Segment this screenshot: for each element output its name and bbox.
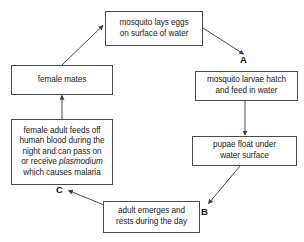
edge-adult-to-female-feeds bbox=[69, 191, 105, 206]
node-label: female adult feeds off human blood durin… bbox=[20, 126, 105, 179]
mosquito-life-cycle-diagram: mosquito lays eggs on surface of water m… bbox=[0, 0, 304, 242]
node-label: female mates bbox=[38, 75, 87, 86]
node-mosquito-larvae-hatch[interactable]: mosquito larvae hatch and feed in water bbox=[195, 71, 298, 101]
node-adult-emerges[interactable]: adult emerges and rests during the day bbox=[103, 201, 200, 233]
step-label-b: B bbox=[201, 207, 208, 217]
node-mosquito-lays-eggs[interactable]: mosquito lays eggs on surface of water bbox=[105, 11, 203, 46]
edge-mates-to-eggs bbox=[62, 26, 103, 66]
node-pupae-float[interactable]: pupae float under water surface bbox=[192, 136, 297, 166]
edge-pupae-to-adult bbox=[209, 166, 241, 204]
node-label: mosquito lays eggs on surface of water bbox=[119, 18, 188, 39]
node-label: mosquito larvae hatch and feed in water bbox=[207, 75, 286, 96]
edge-eggs-to-larvae bbox=[203, 28, 244, 54]
node-female-mates[interactable]: female mates bbox=[11, 65, 113, 95]
step-label-c: C bbox=[56, 185, 63, 195]
step-label-a: A bbox=[240, 55, 247, 65]
node-female-adult-feeds[interactable]: female adult feeds off human blood durin… bbox=[11, 119, 113, 185]
node-label: pupae float under water surface bbox=[213, 140, 276, 161]
node-label: adult emerges and rests during the day bbox=[116, 206, 187, 227]
